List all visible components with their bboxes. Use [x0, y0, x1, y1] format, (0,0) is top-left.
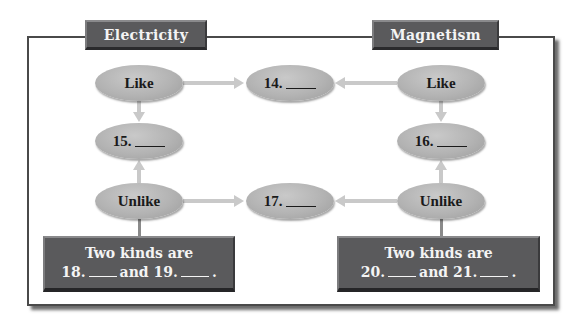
node-label: Like: [426, 75, 455, 92]
arrow-unlike-left-to-15: [137, 169, 141, 183]
answer-blank[interactable]: [286, 196, 316, 207]
box-line-1: Two kinds are: [45, 244, 233, 263]
period: .: [511, 264, 516, 280]
question-number: 14.: [264, 75, 283, 92]
electricity-header-label: Electricity: [104, 27, 188, 43]
question-number: 18.: [61, 264, 85, 280]
period: .: [212, 264, 217, 280]
box-line-1: Two kinds are: [339, 244, 538, 263]
question-number: 20.: [361, 264, 385, 280]
question-number: 16.: [415, 133, 434, 150]
answer-blank-21[interactable]: [480, 266, 508, 277]
answer-blank-19[interactable]: [181, 266, 209, 277]
arrowhead-right-icon: [234, 195, 244, 207]
joiner-text: and: [120, 264, 149, 280]
node-question-15: 15.: [95, 123, 183, 159]
node-like-magnetism: Like: [397, 65, 485, 101]
arrowhead-left-icon: [335, 195, 345, 207]
node-label: Like: [124, 75, 153, 92]
question-number: 17.: [264, 193, 283, 210]
answer-blank-18[interactable]: [89, 266, 117, 277]
arrowhead-up-icon: [133, 160, 145, 170]
arrowhead-right-icon: [234, 77, 244, 89]
node-label: Unlike: [118, 193, 161, 210]
electricity-kinds-box: Two kinds are 18.and 19..: [43, 236, 235, 292]
connector-unlike-right-to-box: [440, 219, 443, 237]
question-number: 19.: [154, 264, 178, 280]
node-question-16: 16.: [397, 123, 485, 159]
arrow-like-left-to-14: [183, 81, 235, 85]
box-line-2: 18.and 19..: [45, 263, 233, 282]
node-label: Unlike: [420, 193, 463, 210]
arrowhead-up-icon: [435, 160, 447, 170]
node-question-14: 14.: [246, 65, 334, 101]
magnetism-header-label: Magnetism: [390, 27, 481, 43]
node-question-17: 17.: [246, 183, 334, 219]
answer-blank[interactable]: [437, 136, 467, 147]
joiner-text: and: [419, 264, 448, 280]
answer-blank-20[interactable]: [388, 266, 416, 277]
answer-blank[interactable]: [135, 136, 165, 147]
node-unlike-magnetism: Unlike: [397, 183, 485, 219]
box-line-2: 20.and 21..: [339, 263, 538, 282]
question-number: 15.: [113, 133, 132, 150]
node-like-electricity: Like: [95, 65, 183, 101]
connector-unlike-left-to-box: [138, 219, 141, 237]
magnetism-header: Magnetism: [372, 20, 499, 50]
question-number: 21.: [453, 264, 477, 280]
arrowhead-down-icon: [133, 112, 145, 122]
magnetism-kinds-box: Two kinds are 20.and 21..: [337, 236, 540, 292]
arrow-like-right-to-14: [345, 81, 397, 85]
arrowhead-down-icon: [435, 112, 447, 122]
arrow-unlike-left-to-17: [183, 199, 235, 203]
node-unlike-electricity: Unlike: [95, 183, 183, 219]
arrow-unlike-right-to-16: [439, 169, 443, 183]
arrowhead-left-icon: [335, 77, 345, 89]
arrow-unlike-right-to-17: [345, 199, 397, 203]
electricity-header: Electricity: [85, 20, 207, 50]
answer-blank[interactable]: [286, 78, 316, 89]
